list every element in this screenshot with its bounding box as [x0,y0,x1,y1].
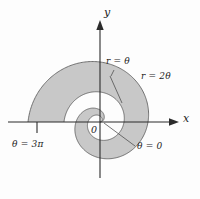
figure-canvas [0,0,200,199]
y-axis-label: y [104,7,110,18]
origin-label: 0 [91,125,97,135]
x-axis-label: x [183,113,189,124]
theta-start-label: θ = 0 [137,142,162,151]
polar-spiral-figure: y x 0 r = θ r = 2θ θ = 0 θ = 3π [0,0,200,199]
inner-curve-label: r = θ [106,57,130,66]
y-axis-arrowhead [96,20,103,30]
outer-curve-label: r = 2θ [141,72,171,81]
x-axis-arrowhead [169,118,179,125]
theta-end-label: θ = 3π [12,140,44,149]
spiral-geometry-group [28,62,149,159]
